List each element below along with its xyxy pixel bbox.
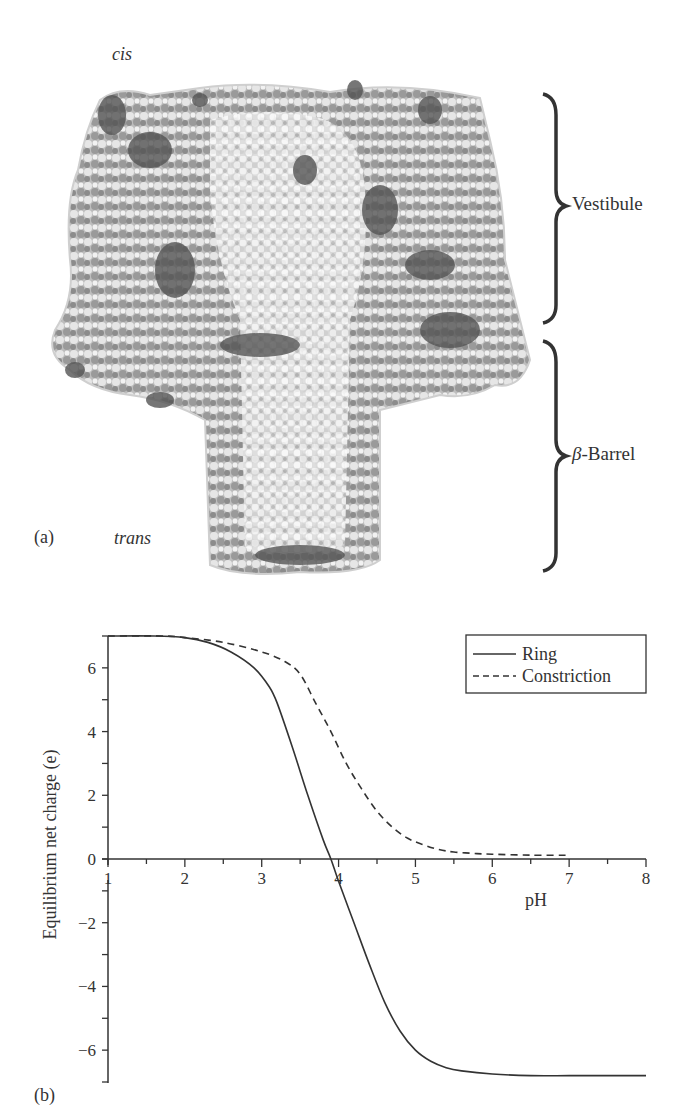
y-tick-label: −2 (78, 914, 96, 933)
y-tick-label: −6 (78, 1041, 96, 1060)
panel-a-label: (a) (34, 527, 54, 548)
cis-label: cis (112, 44, 132, 65)
legend-label-ring: Ring (522, 644, 557, 664)
barrel-brace (543, 341, 566, 571)
vestibule-label: Vestibule (572, 193, 643, 215)
y-axis-title: Equilibrium net charge (e) (40, 749, 61, 939)
chart-lines (108, 636, 646, 1076)
chart-legend: RingConstriction (466, 635, 646, 693)
vestibule-brace (543, 94, 566, 323)
y-tick-label: 2 (88, 786, 97, 805)
panel-b-charge-chart: −6−4−2246012345678pHEquilibrium net char… (0, 600, 685, 1113)
panel-b-label: (b) (34, 1085, 55, 1106)
legend-label-constriction: Constriction (522, 666, 611, 686)
chart-axes: −6−4−2246012345678pHEquilibrium net char… (40, 636, 650, 1083)
panel-a-molecular-structure: cis trans (a) Vestibule β-Barrel (0, 0, 685, 600)
barrel-label: β-Barrel (572, 443, 635, 465)
x-tick-label: 1 (104, 869, 113, 888)
x-tick-label: 8 (642, 869, 651, 888)
x-tick-label: 6 (488, 869, 497, 888)
net-charge-line-chart: −6−4−2246012345678pHEquilibrium net char… (0, 600, 685, 1113)
x-tick-label: 2 (181, 869, 190, 888)
trans-label: trans (114, 528, 151, 549)
y-tick-label: −4 (78, 977, 97, 996)
x-axis-title: pH (525, 890, 547, 910)
protein-pore-model (0, 0, 685, 600)
x-tick-label: 5 (411, 869, 420, 888)
y-tick-label: 6 (88, 659, 97, 678)
y-tick-label: 4 (88, 723, 97, 742)
x-tick-label: 7 (565, 869, 574, 888)
y-tick-label: 0 (88, 850, 97, 869)
x-tick-label: 3 (257, 869, 266, 888)
